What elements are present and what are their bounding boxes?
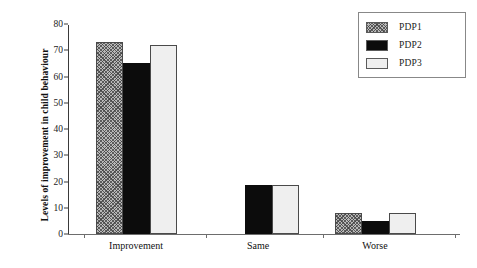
- legend-label-pdp3: PDP3: [399, 58, 422, 68]
- bar-pdp3-worse: [389, 213, 416, 234]
- x-axis-tick-mark: [206, 234, 207, 238]
- legend-item: PDP2: [366, 37, 459, 53]
- x-axis-tick-mark: [323, 234, 324, 238]
- bar-pdp2-same: [245, 185, 272, 234]
- bar-pdp2-worse: [362, 221, 389, 234]
- x-axis-label-same: Same: [247, 240, 269, 251]
- y-axis-tick-mark: [64, 24, 68, 25]
- chart-figure: Levels of improvement in child behaviour…: [0, 0, 477, 268]
- y-axis-tick-mark: [64, 129, 68, 130]
- legend-item: PDP3: [366, 55, 459, 71]
- legend-swatch-pdp1-icon: [366, 22, 388, 33]
- bar-pdp3-same: [272, 185, 299, 234]
- x-axis-tick-mark: [455, 234, 456, 238]
- legend-swatch-pdp3-icon: [366, 58, 388, 69]
- chart-legend: PDP1 PDP2 PDP3: [358, 12, 466, 78]
- x-axis-tick-mark: [84, 234, 85, 238]
- legend-swatch-pdp2-icon: [366, 40, 388, 51]
- x-axis-label-improvement: Improvement: [109, 240, 163, 251]
- bar-pdp3-improvement: [150, 45, 177, 234]
- x-axis-line: [68, 234, 460, 235]
- x-axis-label-worse: Worse: [362, 240, 387, 251]
- bar-pdp1-improvement: [96, 42, 123, 234]
- bar-pdp1-worse: [335, 213, 362, 234]
- y-axis-tick-mark: [64, 234, 68, 235]
- legend-label-pdp2: PDP2: [399, 40, 422, 50]
- bar-pdp2-improvement: [123, 63, 150, 234]
- y-axis-tick-mark: [64, 207, 68, 208]
- y-axis-tick-mark: [64, 181, 68, 182]
- legend-label-pdp1: PDP1: [399, 22, 422, 32]
- y-axis-title: Levels of improvement in child behaviour: [40, 28, 50, 243]
- y-axis-tick-mark: [64, 50, 68, 51]
- legend-item: PDP1: [366, 19, 459, 35]
- y-axis-tick-mark: [64, 76, 68, 77]
- y-axis-tick-mark: [64, 155, 68, 156]
- y-axis-tick-mark: [64, 102, 68, 103]
